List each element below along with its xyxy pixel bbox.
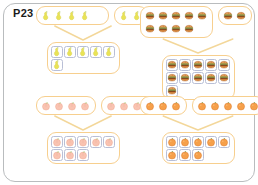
peach-icon	[119, 97, 129, 115]
orange-icon	[210, 97, 220, 115]
problem-burgers	[140, 6, 256, 90]
orange-icon	[236, 97, 246, 115]
sum-box-items	[51, 136, 116, 161]
problem-oranges	[140, 96, 256, 182]
item-cell	[118, 100, 130, 112]
sum-box-items	[51, 46, 116, 71]
item-cell	[90, 136, 102, 148]
peach-icon	[106, 97, 116, 115]
sum-connector	[36, 115, 130, 132]
pear-icon	[119, 7, 129, 25]
peach-icon	[65, 146, 75, 164]
addend-row	[140, 6, 256, 38]
addend-a-box	[36, 6, 109, 25]
item-cell	[179, 72, 191, 84]
peach-icon	[41, 97, 51, 115]
item-cell	[64, 46, 76, 58]
burger-icon	[171, 20, 181, 38]
item-cell	[235, 100, 247, 112]
addend-b-box	[192, 96, 258, 115]
item-cell	[166, 85, 178, 97]
problem-pears	[36, 6, 130, 90]
item-cell	[183, 23, 195, 35]
item-cell	[51, 59, 63, 71]
item-cell	[192, 72, 204, 84]
sum-connector	[140, 115, 256, 132]
item-cell	[51, 149, 63, 161]
pear-icon	[54, 7, 64, 25]
burger-icon	[236, 7, 246, 25]
pear-icon	[52, 56, 62, 74]
item-cell	[218, 136, 230, 148]
pear-icon	[91, 43, 101, 61]
item-cell	[235, 10, 247, 22]
sum-row	[140, 55, 256, 100]
item-cell	[222, 10, 234, 22]
item-cell	[79, 100, 91, 112]
sum-box-items	[166, 136, 231, 161]
addend-a-box-items	[144, 10, 209, 35]
item-cell	[170, 23, 182, 35]
item-cell	[77, 46, 89, 58]
item-cell	[209, 100, 221, 112]
peach-icon	[54, 97, 64, 115]
addend-row	[36, 96, 130, 115]
item-cell	[196, 100, 208, 112]
sum-box-items	[166, 59, 231, 97]
item-cell	[53, 10, 65, 22]
item-cell	[144, 100, 156, 112]
item-cell	[157, 100, 169, 112]
burger-icon	[197, 7, 207, 25]
sum-box	[47, 132, 120, 164]
peach-icon	[91, 133, 101, 151]
item-cell	[179, 149, 191, 161]
sum-box	[162, 132, 235, 164]
pear-icon	[41, 7, 51, 25]
item-cell	[64, 149, 76, 161]
orange-icon	[197, 97, 207, 115]
orange-icon	[171, 97, 181, 115]
peach-icon	[52, 146, 62, 164]
item-cell	[205, 72, 217, 84]
orange-icon	[158, 97, 168, 115]
item-cell	[103, 46, 115, 58]
orange-icon	[167, 146, 177, 164]
peach-icon	[104, 133, 114, 151]
addend-a-box	[140, 6, 213, 38]
item-cell	[53, 100, 65, 112]
addend-a-box	[36, 96, 96, 115]
burger-icon	[145, 20, 155, 38]
item-cell	[205, 136, 217, 148]
addend-a-box-items	[144, 100, 183, 112]
orange-icon	[193, 146, 203, 164]
item-cell	[166, 149, 178, 161]
addend-a-box-items	[40, 10, 105, 22]
item-cell	[66, 100, 78, 112]
item-cell	[222, 100, 234, 112]
item-cell	[79, 10, 91, 22]
item-cell	[103, 136, 115, 148]
pear-icon	[80, 7, 90, 25]
addend-row	[36, 6, 130, 25]
addend-b-box-items	[222, 10, 248, 22]
sum-row	[36, 132, 130, 164]
item-cell	[118, 10, 130, 22]
item-cell	[40, 100, 52, 112]
pear-icon	[65, 43, 75, 61]
orange-icon	[145, 97, 155, 115]
pear-icon	[67, 7, 77, 25]
sum-connector	[36, 25, 130, 42]
item-cell	[90, 46, 102, 58]
sum-box	[162, 55, 235, 100]
sum-box	[47, 42, 120, 74]
orange-icon	[180, 146, 190, 164]
burger-icon	[184, 20, 194, 38]
item-cell	[192, 149, 204, 161]
orange-icon	[219, 133, 229, 151]
worksheet: P23	[0, 0, 258, 185]
pear-icon	[104, 43, 114, 61]
orange-icon	[206, 133, 216, 151]
addend-b-box	[218, 6, 252, 25]
addend-a-box	[140, 96, 187, 115]
problem-peaches	[36, 96, 130, 182]
